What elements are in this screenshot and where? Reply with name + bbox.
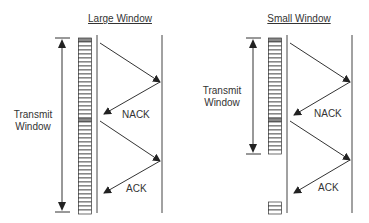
large-window-label-line1: Transmit <box>14 109 53 120</box>
small-packet-stack <box>269 38 282 154</box>
large-window-title: Large Window <box>88 13 153 24</box>
small-next-packet-stack <box>269 202 282 214</box>
small-window-panel: Small Window Transmit Window NACK ACK <box>203 13 352 214</box>
small-data-arrow-2-icon <box>290 121 350 160</box>
small-window-label-line2: Window <box>204 97 240 108</box>
large-nack-label: NACK <box>122 109 150 120</box>
small-transmit-window-arrow-icon <box>246 38 261 154</box>
large-window-label-line2: Window <box>15 121 51 132</box>
small-data-arrow-1-icon <box>290 43 350 82</box>
large-ack-label: ACK <box>126 183 147 194</box>
large-window-panel: Large Window Transmit Window NACK ACK <box>14 13 162 214</box>
small-ack-label: ACK <box>318 182 339 193</box>
large-data-arrow-1-icon <box>100 43 160 82</box>
large-data-arrow-2-icon <box>100 121 160 161</box>
small-nack-label: NACK <box>314 108 342 119</box>
large-transmit-window-arrow-icon <box>55 38 70 212</box>
small-window-label-line1: Transmit <box>203 85 242 96</box>
window-diagram: Large Window Transmit Window NACK ACK Sm… <box>0 0 369 223</box>
large-packet-stack <box>79 38 92 214</box>
small-window-title: Small Window <box>267 13 331 24</box>
